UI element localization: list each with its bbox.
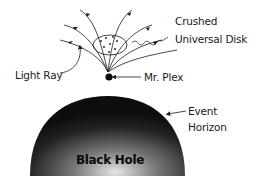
crushed-disk-label-line1: Crushed: [175, 16, 217, 27]
event-horizon-label-line1: Event: [188, 106, 217, 117]
black-hole-label: Black Hole: [75, 153, 145, 167]
light-ray-pointer: [60, 47, 80, 73]
mr-plex-label: Mr. Plex: [144, 72, 183, 83]
mr-plex-dot: [105, 73, 112, 80]
disk-pointer: [132, 37, 168, 45]
event-horizon-label-line2: Horizon: [188, 122, 227, 133]
crushed-universal-disk: [93, 35, 127, 55]
event-horizon-pointer: [168, 111, 186, 114]
light-ray-label: Light Ray: [15, 70, 62, 81]
ray-arrowheads: [68, 12, 158, 45]
crushed-disk-label-line2: Universal Disk: [175, 34, 247, 45]
black-hole-diagram: Crushed Universal Disk Light Ray Mr. Ple…: [0, 0, 265, 183]
